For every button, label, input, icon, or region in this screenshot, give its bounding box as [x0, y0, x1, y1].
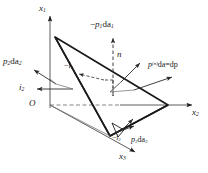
label-traction-face-2: p2da2: [3, 57, 22, 67]
label-unit-minus-i1: −i1: [64, 62, 73, 71]
axis-label-x3: x3: [119, 152, 126, 162]
axis-label-x1: x1: [39, 4, 46, 14]
axis-label-origin: O: [29, 99, 36, 108]
unit-vector-minus-i1: [79, 74, 113, 96]
unit-vector-i2: [37, 79, 73, 89]
traction-vector-face-2: [34, 70, 56, 84]
label-unit-minus-i3: −i3: [112, 134, 121, 143]
tetrahedron-edges: [50, 37, 168, 136]
label-traction-face-1: −p1da1: [90, 20, 114, 30]
axis-label-x2: x2: [192, 108, 199, 118]
label-normal-n: n: [117, 50, 122, 59]
traction-vector-oblique-face: [110, 77, 172, 92]
label-traction-face-3: p3da3: [131, 136, 148, 145]
label-traction-oblique: p(n)da=dp: [148, 61, 178, 69]
label-unit-i2: i2: [19, 83, 24, 93]
